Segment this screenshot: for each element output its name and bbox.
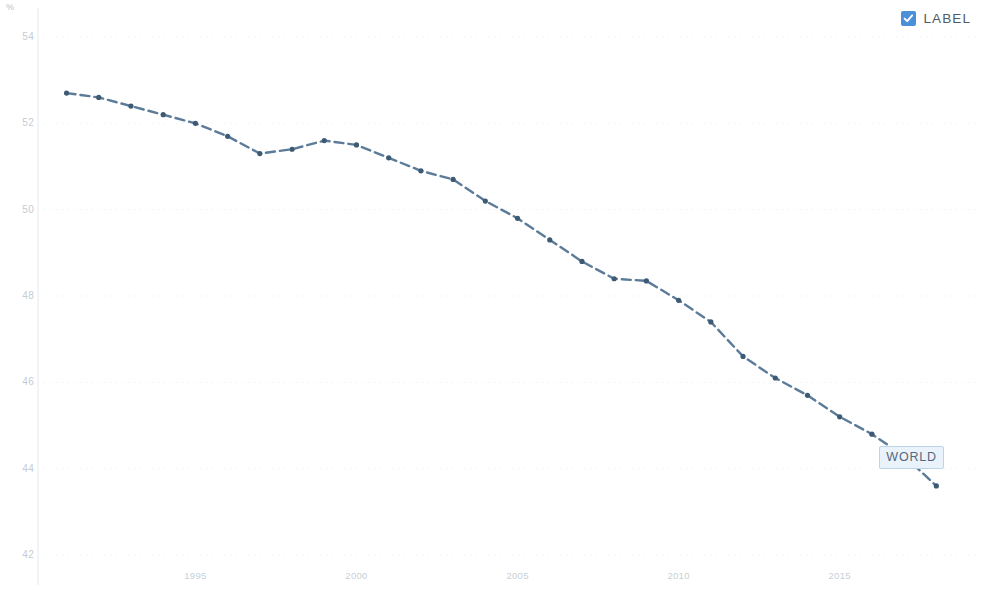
series-point-marker	[128, 103, 133, 108]
series-point-marker	[64, 91, 69, 96]
series-point-marker	[805, 393, 810, 398]
series-point-marker	[386, 155, 391, 160]
series-point-marker	[161, 112, 166, 117]
series-annotation-world: WORLD	[879, 446, 944, 469]
series-point-marker	[708, 319, 713, 324]
series-point-marker	[934, 483, 939, 488]
series-point-marker	[740, 354, 745, 359]
legend[interactable]: LABEL	[901, 11, 971, 26]
series-point-marker	[451, 177, 456, 182]
series-point-marker	[257, 151, 262, 156]
series-point-marker	[773, 375, 778, 380]
series-point-marker	[96, 95, 101, 100]
series-point-marker	[483, 198, 488, 203]
series-point-marker	[354, 142, 359, 147]
series-point-marker	[418, 168, 423, 173]
line-chart: % 54525048464442 19952000200520102015 LA…	[0, 0, 983, 591]
series-point-marker	[644, 278, 649, 283]
series-point-marker	[579, 259, 584, 264]
series-point-marker	[193, 121, 198, 126]
legend-checkbox-icon[interactable]	[901, 11, 916, 26]
series-point-marker	[547, 237, 552, 242]
series-point-marker	[676, 298, 681, 303]
series-point-marker	[869, 432, 874, 437]
series-point-marker	[837, 414, 842, 419]
series-line-label	[67, 93, 937, 486]
legend-label: LABEL	[923, 11, 971, 26]
series-point-marker	[322, 138, 327, 143]
plot-area	[0, 0, 983, 591]
series-point-marker	[289, 147, 294, 152]
series-point-marker	[515, 216, 520, 221]
series-point-marker	[225, 134, 230, 139]
series-point-marker	[612, 276, 617, 281]
